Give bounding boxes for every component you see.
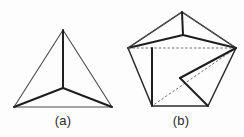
figure-a-crease-left bbox=[14, 88, 63, 107]
figure-b-hidden-diagonal bbox=[152, 48, 236, 106]
geometry-figure-svg bbox=[0, 0, 244, 137]
caption-a: (a) bbox=[40, 113, 86, 128]
figure-b-roof-right-edge bbox=[182, 12, 236, 48]
figure-b-peak-crease-vertical bbox=[182, 12, 183, 35]
caption-b: (b) bbox=[158, 113, 204, 128]
figure-b-peak-crease-right bbox=[183, 35, 236, 48]
figure-b-group bbox=[128, 12, 236, 106]
figure-b-peak-crease-left bbox=[128, 35, 183, 48]
figure-b-fold-right-arm bbox=[180, 48, 236, 78]
figure-a-group bbox=[14, 30, 112, 107]
figure-a-crease-right bbox=[63, 88, 112, 107]
figure-b-fold-left-arm bbox=[180, 78, 208, 106]
figure-panel: (a) (b) bbox=[0, 0, 244, 137]
